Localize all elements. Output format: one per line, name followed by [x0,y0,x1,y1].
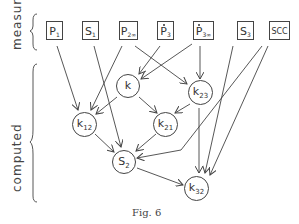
node-s1-sub: 1 [92,31,96,38]
node-k32: k32 [184,176,209,201]
node-p1-sub: 1 [56,31,60,38]
node-s2-sub: 2 [125,162,129,170]
measured-brace [30,14,37,50]
node-k-main: k [125,79,131,92]
node-p1-main: P [49,25,56,38]
node-p3infdot: P3∞ [193,21,214,40]
node-s3-sub: 3 [247,31,251,38]
figure-caption: Fig. 6 [132,207,161,218]
node-k32-sub: 32 [195,188,204,196]
node-scc: SCC [269,21,290,40]
node-s2: S2 [112,150,136,174]
node-p1: P1 [46,21,63,40]
node-k: k [116,74,140,98]
node-p3dot: P3 [157,21,174,40]
node-k12: k12 [72,112,97,137]
measured-label: measured [10,0,24,50]
node-p2inf-sub: 2∞ [127,31,136,38]
node-k21-sub: 21 [164,124,173,132]
node-p3dot-sub: 3 [167,31,171,38]
node-p3infdot-main: P [196,25,203,38]
node-k21: k21 [153,112,178,137]
node-p3dot-main: P [160,25,167,38]
node-k23-sub: 23 [199,92,208,100]
computed-brace [30,64,37,202]
node-k12-sub: 12 [83,124,92,132]
node-s1: S1 [82,21,99,40]
node-p2inf: P2∞ [119,21,138,40]
computed-label: computed [10,123,24,192]
diagram-edges [0,0,299,224]
node-k23: k23 [188,80,213,105]
node-s3: S3 [237,21,254,40]
node-scc-main: SCC [271,27,287,36]
node-p3infdot-sub: 3∞ [202,31,211,38]
